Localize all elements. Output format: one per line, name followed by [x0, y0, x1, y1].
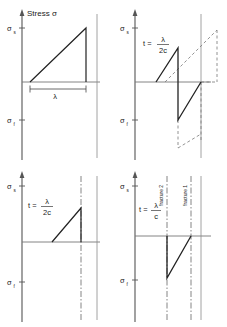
sigma-s-symbol: σ — [7, 182, 12, 191]
sigma-f-subscript: f — [127, 282, 129, 287]
sigma-f-symbol: σ — [7, 116, 12, 125]
time-numerator: λ — [45, 197, 49, 206]
dashed-lower-ramp — [178, 134, 201, 148]
fracture-2-label: fracture 2 — [158, 185, 164, 206]
sigma-s-subscript: s — [14, 188, 17, 193]
wavelength-label: λ — [53, 92, 57, 101]
sigma-f-subscript: f — [14, 284, 16, 289]
waveform-ramp-triangle — [30, 28, 86, 82]
time-label: t = — [143, 39, 152, 48]
sigma-f-symbol: σ — [120, 116, 125, 125]
panel-4-plot: σ s σ f t = λ c fracture 2 fracture 1 — [113, 164, 227, 327]
panel-1-plot: Stress σ σ s σ f — [0, 0, 113, 164]
time-label: t = — [28, 201, 37, 210]
sigma-s-symbol: σ — [120, 24, 125, 33]
y-axis-arrowhead — [20, 171, 25, 178]
label-sigma-f: σ f — [120, 276, 129, 287]
panel-bottom-left: σ s σ f t = λ 2c — [0, 164, 113, 327]
panel-top-right: σ s σ f t = λ 2c — [113, 0, 227, 164]
time-label: t = — [139, 205, 148, 214]
time-denominator: 2c — [159, 46, 167, 55]
waveform-sawtooth — [156, 48, 201, 120]
stress-waveform-figure: Stress σ σ s σ f — [0, 0, 227, 327]
time-denominator: 2c — [43, 208, 51, 217]
sigma-f-subscript: f — [14, 122, 16, 127]
label-sigma-s: σ s — [120, 182, 130, 193]
y-axis-arrowhead — [133, 9, 138, 16]
label-sigma-s: σ s — [120, 24, 130, 35]
panel-bottom-right: σ s σ f t = λ c fracture 2 fracture 1 — [113, 164, 227, 327]
dashed-construction-lines — [165, 30, 217, 148]
waveform-drop-ramp — [167, 236, 191, 278]
fracture-1-label: fracture 1 — [182, 185, 188, 206]
figure-title: Stress σ — [27, 9, 57, 18]
time-annotation: t = λ 2c — [143, 35, 169, 55]
sigma-s-subscript: s — [127, 30, 130, 35]
sigma-s-subscript: s — [127, 188, 130, 193]
sigma-s-subscript: s — [14, 30, 17, 35]
waveform-ramp-truncated — [52, 208, 81, 242]
label-sigma-f: σ f — [7, 116, 16, 127]
sigma-f-symbol: σ — [7, 278, 12, 287]
label-sigma-f: σ f — [120, 116, 129, 127]
panel-top-left: Stress σ σ s σ f — [0, 0, 113, 164]
y-axis-arrowhead — [20, 9, 25, 16]
label-sigma-s: σ s — [7, 24, 17, 35]
time-annotation: t = λ 2c — [28, 197, 53, 217]
time-numerator: λ — [161, 35, 165, 44]
sigma-s-symbol: σ — [120, 182, 125, 191]
sigma-s-symbol: σ — [7, 24, 12, 33]
panel-2-plot: σ s σ f t = λ 2c — [113, 0, 227, 164]
label-sigma-s: σ s — [7, 182, 17, 193]
y-axis-arrowhead — [133, 171, 138, 178]
sigma-f-subscript: f — [127, 122, 129, 127]
wavelength-bracket: λ — [30, 86, 86, 102]
label-sigma-f: σ f — [7, 278, 16, 289]
sigma-f-symbol: σ — [120, 276, 125, 285]
time-denominator: c — [154, 212, 158, 221]
panel-3-plot: σ s σ f t = λ 2c — [0, 164, 113, 327]
